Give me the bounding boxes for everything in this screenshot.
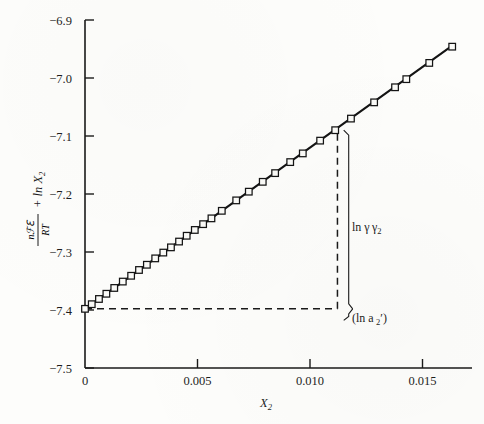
- data-point-marker: [152, 255, 159, 262]
- data-point-marker: [348, 115, 355, 122]
- y-tick-label: −6.9: [49, 14, 72, 28]
- svg-text:X2: X2: [259, 396, 273, 412]
- fraction-denominator: RT: [40, 223, 51, 237]
- data-point-marker: [183, 232, 190, 239]
- x-axis-title-sub: 2: [268, 402, 273, 412]
- data-point-marker: [120, 278, 127, 285]
- data-point-marker: [246, 188, 253, 195]
- fraction-numerator: nℱℇ: [25, 219, 36, 240]
- data-point-marker: [287, 159, 294, 166]
- x-axis-ticks: [198, 359, 423, 368]
- y-tick-label: −7.3: [49, 246, 72, 260]
- data-point-marker: [136, 267, 143, 274]
- data-point-marker: [128, 272, 135, 279]
- data-point-marker: [208, 215, 215, 222]
- data-point-marker: [233, 197, 240, 204]
- x-axis-tick-labels: 00.0050.0100.015: [82, 374, 437, 388]
- data-point-marker: [403, 76, 410, 83]
- y-tick-label: −7.1: [49, 130, 72, 144]
- data-point-marker: [82, 306, 89, 313]
- x-tick-label: 0.005: [183, 374, 211, 388]
- annotation-ln-gamma-2: ln γ γ2: [352, 220, 382, 236]
- data-point-marker: [272, 170, 279, 177]
- data-point-marker: [259, 179, 266, 186]
- y-tick-label: −7.2: [49, 188, 72, 202]
- y-axis-title-fraction: nℱℇ RT: [25, 214, 51, 246]
- annotation-ln-a-2-prime: (ln a 2′): [352, 311, 387, 327]
- chart-plot: −6.9−7.0−7.1−7.2−7.3−7.4−7.5 00.0050.010…: [0, 0, 484, 424]
- y-tick-label: −7.0: [49, 72, 72, 86]
- data-point-marker: [160, 249, 167, 256]
- x-tick-label: 0.010: [296, 374, 324, 388]
- data-point-marker: [168, 244, 175, 251]
- data-point-marker: [426, 60, 433, 67]
- data-point-marker: [449, 43, 456, 50]
- data-point-marker: [371, 99, 378, 106]
- data-point-marker: [144, 261, 151, 268]
- data-point-marker: [88, 301, 95, 308]
- data-point-marker: [219, 208, 226, 215]
- data-point-marker: [96, 296, 103, 303]
- y-axis-title: nℱℇ RT + ln X2: [25, 171, 51, 246]
- x-tick-label: 0: [82, 374, 88, 388]
- y-tick-label: −7.4: [49, 304, 72, 318]
- figure-container: −6.9−7.0−7.1−7.2−7.3−7.4−7.5 00.0050.010…: [0, 0, 484, 424]
- data-point-marker: [392, 84, 399, 91]
- data-point-marker: [332, 127, 339, 134]
- svg-text:ln γ γ2: ln γ γ2: [352, 220, 382, 236]
- data-point-marker: [200, 221, 207, 228]
- x-tick-label: 0.015: [408, 374, 436, 388]
- data-point-marker: [192, 227, 199, 234]
- svg-text:(ln a 2′): (ln a 2′): [352, 311, 387, 327]
- data-point-marker: [103, 290, 110, 297]
- data-point-marker: [176, 238, 183, 245]
- data-point-marker: [317, 137, 324, 144]
- y-axis-tick-labels: −6.9−7.0−7.1−7.2−7.3−7.4−7.5: [49, 14, 72, 376]
- x-axis-title: X2: [259, 396, 273, 412]
- data-point-marker: [111, 285, 118, 292]
- y-axis-title-suffix: + ln X2: [31, 171, 47, 208]
- data-point-marker: [300, 150, 307, 157]
- y-tick-label: −7.5: [49, 362, 72, 376]
- y-axis-ticks: [85, 20, 94, 368]
